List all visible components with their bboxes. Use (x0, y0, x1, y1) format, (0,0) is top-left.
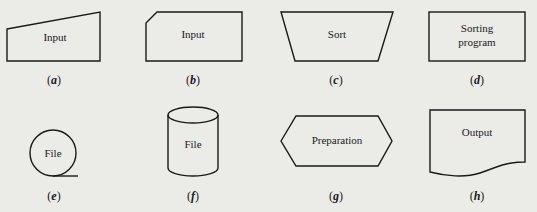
shape-magnetic-tape: File (30, 130, 78, 176)
shape-label: File (44, 147, 61, 159)
caption-h: (h) (470, 189, 485, 203)
shape-label-line-2: program (458, 36, 496, 48)
shape-label: Output (462, 126, 493, 138)
caption-e: (e) (47, 189, 60, 203)
shape-label-line-1: Sorting (461, 22, 494, 34)
shape-punched-card: Input (146, 12, 242, 61)
shape-magnetic-disk: File (168, 107, 218, 176)
flowchart-symbols-figure: Input (a) Input (b) Sort (c) Sorting pro… (0, 0, 537, 212)
caption-f: (f) (187, 189, 199, 203)
caption-b: (b) (186, 73, 200, 87)
caption-c: (c) (329, 73, 342, 87)
caption-a: (a) (47, 73, 61, 87)
shape-label: Preparation (312, 134, 363, 146)
caption-g: (g) (329, 189, 343, 203)
shape-label: Input (181, 28, 204, 40)
shape-label: Sort (328, 28, 346, 40)
shape-preparation: Preparation (281, 116, 392, 166)
shape-document: Output (430, 110, 525, 176)
shape-label: Input (43, 31, 66, 43)
shape-manual-operation: Sort (281, 12, 393, 61)
shape-manual-input: Input (7, 12, 100, 61)
shape-label: File (184, 138, 201, 150)
caption-d: (d) (470, 73, 484, 87)
shape-process: Sorting program (429, 12, 525, 61)
